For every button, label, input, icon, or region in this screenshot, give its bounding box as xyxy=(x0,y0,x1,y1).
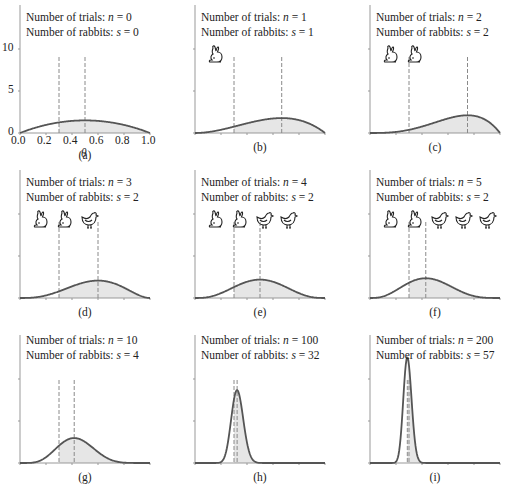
trials-label: Number of trials: n = 200 xyxy=(376,333,493,347)
panel-c: Number of trials: n = 2Number of rabbits… xyxy=(350,0,523,165)
trials-label: Number of trials: n = 2 xyxy=(376,10,482,24)
panel-g: Number of trials: n = 10Number of rabbit… xyxy=(0,330,175,495)
rabbits-label: Number of rabbits: s = 0 xyxy=(26,25,139,39)
x-tick-label: 0.8 xyxy=(115,134,129,146)
x-tick-label: 0.2 xyxy=(37,134,51,146)
posterior-fill xyxy=(234,390,325,463)
x-tick-label: 0.6 xyxy=(89,134,103,146)
panel-e: Number of trials: n = 4Number of rabbits… xyxy=(175,165,350,330)
rabbits-label: Number of rabbits: s = 2 xyxy=(201,190,314,204)
rabbits-label: Number of rabbits: s = 1 xyxy=(201,25,314,39)
panel-a: Number of trials: n = 0Number of rabbits… xyxy=(0,0,175,165)
y-tick-label: 0 xyxy=(8,125,14,137)
panel-h: Number of trials: n = 100Number of rabbi… xyxy=(175,330,350,495)
posterior-curve xyxy=(195,390,325,463)
y-tick-label: 5 xyxy=(8,83,14,95)
trials-label: Number of trials: n = 4 xyxy=(201,175,307,189)
panel-d: Number of trials: n = 3Number of rabbits… xyxy=(0,165,175,330)
x-axis-label: θ xyxy=(81,147,87,159)
rabbits-label: Number of rabbits: s = 2 xyxy=(26,190,139,204)
panel-caption: (e) xyxy=(240,306,280,318)
panel-b: Number of trials: n = 1Number of rabbits… xyxy=(175,0,350,165)
rabbits-label: Number of rabbits: s = 57 xyxy=(376,348,495,362)
trials-label: Number of trials: n = 3 xyxy=(26,175,132,189)
y-tick-label: 10 xyxy=(2,41,14,53)
posterior-fill xyxy=(59,281,150,298)
panel-caption: (c) xyxy=(415,141,455,153)
trials-label: Number of trials: n = 5 xyxy=(376,175,482,189)
trials-label: Number of trials: n = 1 xyxy=(201,10,307,24)
panel-caption: (b) xyxy=(240,141,280,153)
trials-label: Number of trials: n = 10 xyxy=(26,333,138,347)
panel-caption: (h) xyxy=(240,471,280,483)
panel-caption: (i) xyxy=(415,471,455,483)
posterior-fill xyxy=(409,115,500,133)
rabbits-label: Number of rabbits: s = 4 xyxy=(26,348,139,362)
panel-caption: (f) xyxy=(415,306,455,318)
posterior-fill xyxy=(407,358,500,463)
panel-caption: (g) xyxy=(65,471,105,483)
rabbits-label: Number of rabbits: s = 2 xyxy=(376,190,489,204)
rabbits-label: Number of rabbits: s = 32 xyxy=(201,348,320,362)
panel-caption: (d) xyxy=(65,306,105,318)
rabbits-label: Number of rabbits: s = 2 xyxy=(376,25,489,39)
trials-label: Number of trials: n = 0 xyxy=(26,10,132,24)
panel-i: Number of trials: n = 200Number of rabbi… xyxy=(350,330,523,495)
posterior-fill xyxy=(59,438,150,463)
posterior-fill xyxy=(234,118,325,133)
posterior-curve xyxy=(370,358,500,463)
x-tick-label: 1.0 xyxy=(141,134,155,146)
x-tick-label: 0.4 xyxy=(63,134,77,146)
panel-f: Number of trials: n = 5Number of rabbits… xyxy=(350,165,523,330)
trials-label: Number of trials: n = 100 xyxy=(201,333,318,347)
